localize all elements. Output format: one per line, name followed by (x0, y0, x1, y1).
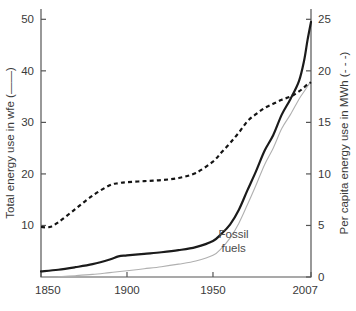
data-series-group (41, 22, 311, 277)
plot-frame (41, 9, 311, 277)
y-axis-tick-label: 20 (21, 168, 34, 180)
chart-annotations: Fossilfuels (219, 228, 249, 254)
y2-axis-tick-label: 0 (318, 271, 324, 283)
x-axis-tick-label: 1850 (35, 284, 61, 296)
y-axis-tick-label: 50 (21, 13, 34, 25)
axes-frame (41, 9, 311, 277)
energy-use-line-chart: 102030405005101520251850190019502007 Tot… (0, 0, 356, 311)
x-axis-tick-label: 1900 (114, 284, 140, 296)
axis-tick-labels: 102030405005101520251850190019502007 (21, 13, 331, 296)
y-axis-tick-label: 30 (21, 116, 34, 128)
series-line-total-energy (41, 22, 311, 271)
annotation-fossil-fuels-line1: Fossil (219, 228, 249, 240)
y2-axis-tick-label: 25 (318, 13, 331, 25)
axis-titles: Total energy use in wfe (——)Per capita e… (4, 51, 350, 234)
annotation-fossil-fuels-line2: fuels (221, 242, 246, 254)
y-axis-tick-label: 10 (21, 219, 34, 231)
y2-axis-tick-label: 5 (318, 219, 324, 231)
x-axis-tick-label: 2007 (292, 284, 318, 296)
axis-ticks (41, 19, 311, 277)
y2-axis-title: Per capita energy use in MWh (- - -) (338, 51, 350, 234)
series-line-per-capita (41, 82, 311, 227)
x-axis-tick-label: 1950 (200, 284, 226, 296)
y-axis-tick-label: 40 (21, 65, 34, 77)
y2-axis-tick-label: 20 (318, 65, 331, 77)
y2-axis-tick-label: 15 (318, 116, 331, 128)
y-axis-title: Total energy use in wfe (——) (4, 67, 16, 219)
y2-axis-tick-label: 10 (318, 168, 331, 180)
series-line-fossil-fuels (58, 81, 311, 277)
chart-figure: 102030405005101520251850190019502007 Tot… (0, 0, 356, 311)
